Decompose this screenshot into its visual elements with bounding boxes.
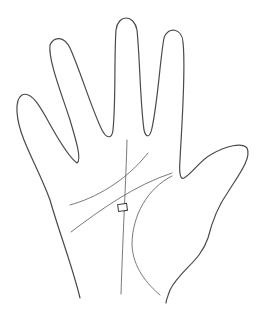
fate-line [121, 140, 127, 294]
square-mark [118, 203, 128, 211]
hand-drawing [0, 0, 261, 319]
life-line [132, 176, 172, 295]
hand-outline [17, 18, 248, 303]
heart-line [70, 153, 148, 205]
palm-diagram [0, 0, 261, 319]
head-line [71, 173, 172, 232]
